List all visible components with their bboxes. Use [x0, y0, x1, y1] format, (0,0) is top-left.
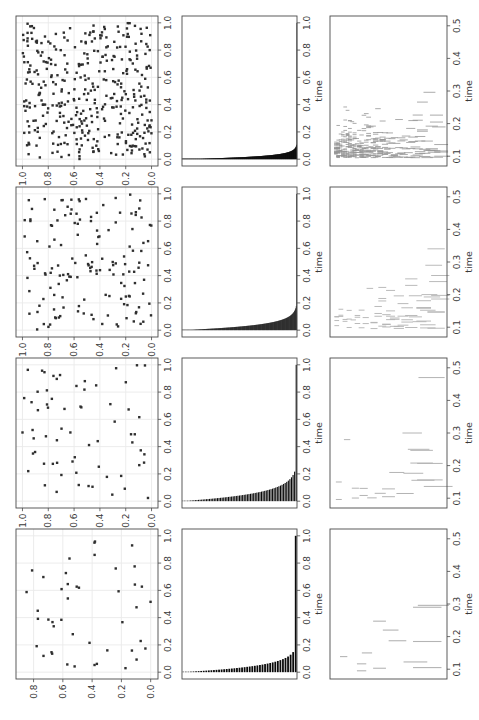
y-tick-label: 0.0 [146, 684, 156, 699]
scatter-point [137, 122, 139, 124]
scatter-point [93, 554, 95, 556]
scatter-point [40, 99, 42, 101]
bar [213, 670, 215, 672]
scatter-point [78, 63, 80, 65]
bar [211, 499, 212, 501]
scatter-point [47, 107, 49, 109]
scatter-point [26, 40, 28, 42]
scatter-point [81, 131, 83, 133]
scatter-point [31, 38, 33, 40]
scatter-point [120, 475, 122, 477]
scatter-point [38, 305, 40, 307]
scatter-point [60, 143, 62, 145]
scatter-point [65, 134, 67, 136]
scatter-point [120, 298, 122, 300]
scatter-point [74, 78, 76, 80]
scatter-point [87, 92, 89, 94]
scatter-point [34, 105, 36, 107]
scatter-point [42, 103, 44, 105]
bar [250, 494, 251, 501]
scatter-point [60, 49, 62, 51]
x-tick-label: 0.8 [163, 556, 173, 571]
x-tick-label: 0.2 [452, 629, 462, 643]
scatter-point [29, 64, 31, 66]
x-tick-label: 0.0 [163, 323, 173, 338]
scatter-point [117, 25, 119, 27]
y-tick-label: 1.0 [18, 171, 28, 186]
scatter-point [90, 89, 92, 91]
scatter-point [31, 25, 33, 27]
scatter-point [130, 212, 132, 214]
subplot-bars-c1: 0.00.20.40.60.81.0time [182, 528, 324, 679]
scatter-point [51, 398, 53, 400]
x-tick-label: 0.2 [163, 125, 173, 139]
scatter-point [105, 79, 107, 81]
scatter-point [92, 30, 94, 32]
bar [261, 492, 262, 502]
scatter-point [144, 124, 146, 126]
x-tick-label: 0.4 [163, 610, 173, 625]
bar [229, 497, 230, 501]
scatter-point [124, 667, 126, 669]
scatter-point [81, 122, 83, 124]
scatter-point [57, 264, 59, 266]
scatter-point [77, 234, 79, 236]
scatter-point [60, 588, 62, 590]
y-tick-label: 0.6 [69, 171, 79, 186]
scatter-point [92, 85, 94, 87]
scatter-point [26, 78, 28, 80]
bar [269, 663, 271, 672]
scatter-point [63, 142, 65, 144]
bar [187, 501, 188, 502]
scatter-point [58, 283, 60, 285]
scatter-point [61, 199, 63, 201]
scatter-point [24, 219, 26, 221]
bar [274, 488, 275, 501]
scatter-point [66, 143, 68, 145]
scatter-point [80, 120, 82, 122]
scatter-point [65, 572, 67, 574]
scatter-point [29, 80, 31, 82]
scatter-point [122, 117, 124, 119]
x-tick-label: 0.2 [302, 296, 312, 310]
scatter-point [136, 127, 138, 129]
scatter-point [103, 78, 105, 80]
scatter-point [134, 130, 136, 132]
y-tick-label: 0.6 [58, 684, 68, 699]
figure: 0.00.20.40.60.81.00.00.20.40.60.80.00.20… [0, 0, 479, 720]
scatter-point [97, 86, 99, 88]
scatter-point [102, 106, 104, 108]
bar [189, 501, 190, 502]
scatter-point [111, 59, 113, 61]
bar [281, 485, 282, 501]
scatter-point [43, 323, 45, 325]
scatter-point [83, 119, 85, 121]
scatter-point [144, 364, 146, 366]
scatter-point [36, 391, 38, 393]
scatter-point [144, 155, 146, 157]
bar [209, 499, 210, 501]
scatter-point [47, 618, 49, 620]
scatter-point [53, 209, 55, 211]
scatter-point [44, 84, 46, 86]
scatter-point [139, 28, 141, 30]
scatter-point [110, 152, 112, 154]
bar [221, 669, 223, 672]
scatter-point [34, 129, 36, 131]
scatter-point [121, 621, 123, 623]
bar [293, 475, 294, 501]
scatter-point [45, 435, 47, 437]
y-tick-label: 0.6 [69, 342, 79, 357]
scatter-point [28, 290, 30, 292]
scatter-point [66, 663, 68, 665]
bar [195, 500, 196, 501]
scatter-point [135, 49, 137, 51]
bar [282, 659, 284, 672]
scatter-point [26, 23, 28, 25]
scatter-point [128, 270, 130, 272]
scatter-point [115, 262, 117, 264]
x-tick-label: 1.0 [302, 15, 312, 30]
scatter-point [42, 576, 44, 578]
scatter-point [114, 197, 116, 199]
scatter-point [37, 127, 39, 129]
